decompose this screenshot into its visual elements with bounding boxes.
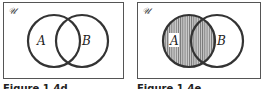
universe-box [4, 3, 124, 79]
figure-caption-left: Figure 1.4d [3, 83, 68, 89]
set-a-label: A [169, 34, 179, 48]
set-b-label: B [216, 34, 226, 48]
set-a-label: A [36, 34, 46, 48]
figure-caption-right: Figure 1.4e [137, 83, 201, 89]
venn-svg-right: 𝒰 A B [134, 0, 267, 82]
venn-svg-left: 𝒰 A B [0, 0, 130, 82]
venn-diagram-left: 𝒰 A B [0, 0, 130, 82]
venn-diagram-right: 𝒰 A B [134, 0, 267, 82]
set-b-label: B [81, 34, 91, 48]
